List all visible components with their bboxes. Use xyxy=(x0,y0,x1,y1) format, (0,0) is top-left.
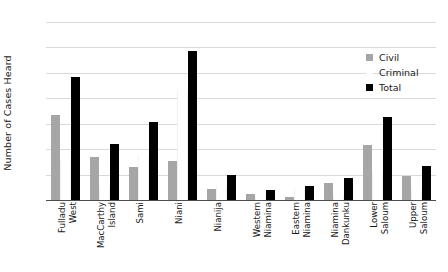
bar-civil-8 xyxy=(363,145,372,200)
y-axis-title: Number of Cases Heard xyxy=(2,15,16,211)
bar-chart: Number of Cases Heard 020406080100120140… xyxy=(0,0,448,272)
x-axis-label: Saloum xyxy=(378,202,392,270)
bar-total-6 xyxy=(305,186,314,200)
bar-total-3 xyxy=(188,51,197,200)
bar-group xyxy=(163,22,202,200)
bar-civil-3 xyxy=(168,161,177,200)
criminal-swatch xyxy=(366,69,373,76)
x-label-cell: NiaminaDankunku xyxy=(319,202,358,272)
bar-group xyxy=(124,22,163,200)
bar-civil-5 xyxy=(246,194,255,200)
bar-total-1 xyxy=(110,144,119,200)
bar-civil-0 xyxy=(51,115,60,200)
legend-label: Civil xyxy=(379,52,399,63)
x-axis-label: West xyxy=(66,202,80,270)
civil-swatch xyxy=(366,54,373,61)
x-label-cell: Nianija xyxy=(202,202,241,272)
x-axis-label: Sami xyxy=(133,202,147,270)
legend-label: Criminal xyxy=(379,67,419,78)
x-axis-label: Niani xyxy=(172,202,186,270)
bar-group xyxy=(397,22,436,200)
bar-criminal-2 xyxy=(138,156,149,201)
x-axis-label: Niamina xyxy=(261,202,275,270)
bar-criminal-9 xyxy=(411,190,422,200)
gridline-0 xyxy=(46,200,436,201)
legend-label: Total xyxy=(379,82,401,93)
bar-group xyxy=(358,22,397,200)
bar-group xyxy=(202,22,241,200)
bar-total-8 xyxy=(383,117,392,200)
bar-criminal-1 xyxy=(99,187,110,200)
bar-group xyxy=(241,22,280,200)
bar-civil-1 xyxy=(90,157,99,200)
x-label-cell: LowerSaloum xyxy=(358,202,397,272)
bar-civil-7 xyxy=(324,183,333,200)
x-label-cell: MacCarthyIsland xyxy=(85,202,124,272)
bar-civil-9 xyxy=(402,176,411,200)
bar-group xyxy=(85,22,124,200)
bar-criminal-7 xyxy=(333,195,344,200)
bar-total-2 xyxy=(149,122,158,200)
bar-criminal-4 xyxy=(216,186,227,200)
bar-group xyxy=(46,22,85,200)
x-label-cell: Sami xyxy=(124,202,163,272)
bar-total-5 xyxy=(266,190,275,200)
bar-criminal-6 xyxy=(294,189,305,200)
x-label-cell: WesternNiamina xyxy=(241,202,280,272)
bar-group xyxy=(280,22,319,200)
bar-civil-6 xyxy=(285,197,294,200)
x-axis-label: Dankunku xyxy=(339,202,353,270)
x-label-cell: FulladuWest xyxy=(46,202,85,272)
x-axis-label: Island xyxy=(105,202,119,270)
legend-item-total[interactable]: Total xyxy=(366,80,444,95)
bar-criminal-8 xyxy=(372,172,383,200)
bar-civil-2 xyxy=(129,167,138,200)
x-label-cell: Niani xyxy=(163,202,202,272)
bar-group xyxy=(319,22,358,200)
bar-total-7 xyxy=(344,178,353,200)
x-axis-label: Niamina xyxy=(300,202,314,270)
total-swatch xyxy=(366,84,373,91)
bar-total-4 xyxy=(227,175,236,200)
legend-item-civil[interactable]: Civil xyxy=(366,50,444,65)
bar-criminal-3 xyxy=(177,91,188,200)
bar-criminal-5 xyxy=(255,196,266,200)
x-axis-label: Nianija xyxy=(211,202,225,270)
plot-area xyxy=(46,22,436,200)
x-label-cell: UpperSaloum xyxy=(397,202,436,272)
x-axis-labels: FulladuWestMacCarthyIslandSamiNianiNiani… xyxy=(46,202,436,272)
bar-criminal-0 xyxy=(60,161,71,200)
legend-item-criminal[interactable]: Criminal xyxy=(366,65,444,80)
legend: CivilCriminalTotal xyxy=(366,50,444,95)
x-label-cell: EasternNiamina xyxy=(280,202,319,272)
bar-civil-4 xyxy=(207,189,216,200)
bar-total-0 xyxy=(71,77,80,200)
bar-groups xyxy=(46,22,436,200)
bar-total-9 xyxy=(422,166,431,200)
x-axis-label: Saloum xyxy=(417,202,431,270)
